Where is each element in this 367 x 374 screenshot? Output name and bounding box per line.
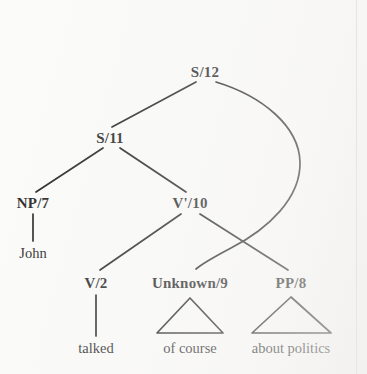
node-s12: S/12 [191,64,219,81]
figure-canvas: S/12 S/11 NP/7 V'/10 V/2 Unknown/9 PP/8 … [0,0,367,374]
tree-graph [0,0,367,374]
leaf-about-politics: about politics [252,340,331,357]
node-np7: NP/7 [17,195,49,212]
edge-s11-vbar10 [120,148,186,192]
leaf-talked: talked [78,340,113,357]
edge-vbar10-v2 [100,214,181,270]
node-v2: V/2 [84,275,107,292]
edge-s12-s11 [112,82,196,127]
node-s11: S/11 [96,130,123,147]
node-unknown9: Unknown/9 [152,275,228,292]
triangle-pp8 [252,297,331,333]
node-pp8: PP/8 [276,275,307,292]
page-edge-line [356,0,357,374]
edge-s11-np7 [36,148,103,192]
node-vbar10: V'/10 [172,195,207,212]
triangle-unknown9 [157,298,223,333]
leaf-john: John [19,245,46,262]
edge-s12-unknown9 [196,82,300,269]
edge-vbar10-pp8 [200,214,288,270]
leaf-of-course: of course [163,340,217,357]
